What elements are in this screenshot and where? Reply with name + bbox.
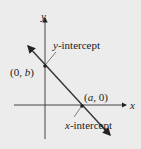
y-axis-label: y [40,10,46,22]
x-intercept-label: x-intercept [64,119,112,131]
x-intercept-leader [74,107,81,117]
intercept-diagram: y x y-intercept x-intercept (0, b) (a, 0… [0,0,141,149]
y-intercept-point [43,64,47,68]
point-a-0-label: (a, 0) [84,91,108,104]
x-axis-label: x [129,99,135,111]
y-intercept-label: y-intercept [52,39,100,51]
y-intercept-leader [46,52,56,64]
point-0-b-label: (0, b) [10,66,34,79]
